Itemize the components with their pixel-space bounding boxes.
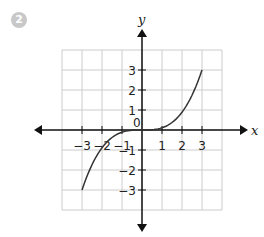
- y-tick-label: −1: [118, 144, 136, 158]
- y-tick-label: −2: [118, 164, 136, 178]
- x-tick-label: 0: [133, 116, 141, 130]
- x-axis-right-arrow-icon: [240, 125, 248, 135]
- x-axis-label: x: [251, 123, 259, 138]
- x-tick-label: 1: [158, 139, 166, 153]
- x-tick-label: −3: [73, 139, 91, 153]
- y-axis-label: y: [137, 12, 146, 27]
- y-tick-label: −3: [118, 184, 136, 198]
- coordinate-graph: xy−3−2−10123321−1−2−3: [0, 0, 264, 237]
- y-tick-label: 3: [128, 64, 136, 78]
- y-tick-label: 2: [128, 84, 136, 98]
- y-axis-up-arrow-icon: [137, 29, 147, 37]
- y-axis-down-arrow-icon: [137, 224, 147, 232]
- x-axis-left-arrow-icon: [34, 125, 42, 135]
- x-tick-label: 3: [198, 139, 206, 153]
- x-tick-label: 2: [178, 139, 186, 153]
- y-tick-label: 1: [128, 104, 136, 118]
